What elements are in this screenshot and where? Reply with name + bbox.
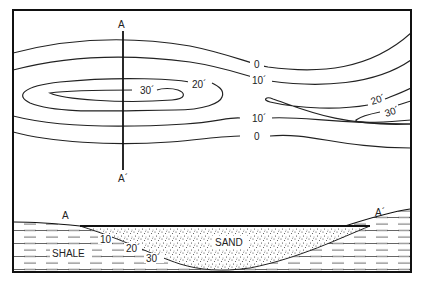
depth-label-10: 10 (100, 234, 112, 245)
depth-label-30: 30´ (146, 253, 160, 264)
cross-section: A A´ 10 20´ 30´ SHALE SAND (14, 207, 410, 271)
contour-30-closed (50, 89, 183, 102)
contour-label-0-upper: 0 (254, 59, 260, 70)
contour-label-20-left: 20´ (192, 79, 206, 90)
isopach-diagram: A A´ 30´ 20´ 0 10´ 10´ 0 20´ 30´ A A´ 10… (0, 0, 428, 288)
contour-label-20-right: 20´ (369, 92, 386, 107)
contour-label-30-right: 30´ (383, 104, 400, 119)
section-label-a: A (62, 210, 69, 221)
contour-0-upper (13, 33, 411, 70)
contour-label-0-lower: 0 (254, 131, 260, 142)
contour-10-lower (13, 116, 240, 126)
unit-label-sand: SAND (215, 237, 243, 248)
section-label-a-prime-map: A´ (118, 173, 128, 184)
contour-0-right (270, 135, 411, 148)
unit-label-shale: SHALE (52, 248, 85, 259)
contour-label-30-left: 30´ (140, 85, 154, 96)
contour-10-upper (13, 57, 411, 84)
contour-0-lower (13, 132, 240, 144)
ground-surface (14, 209, 410, 226)
contour-10-right (270, 118, 411, 124)
contour-label-10-lower: 10´ (252, 113, 266, 124)
section-label-a-prime: A´ (375, 207, 385, 218)
section-label-a-map: A (118, 19, 125, 30)
depth-label-20: 20´ (126, 243, 140, 254)
contour-label-10-upper: 10´ (252, 75, 266, 86)
